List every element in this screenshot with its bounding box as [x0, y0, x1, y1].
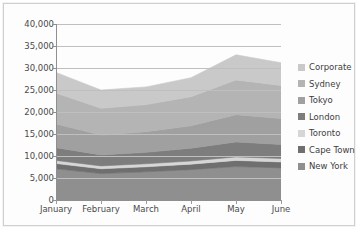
legend-item[interactable]: Tokyo	[298, 92, 362, 109]
plot-area	[56, 24, 281, 200]
y-axis-tick-label: 25,000	[8, 86, 54, 94]
chart-frame: 05,00010,00015,00020,00025,00030,00035,0…	[3, 3, 355, 226]
gridline	[56, 156, 281, 157]
legend-swatch-icon	[298, 163, 305, 170]
legend-item[interactable]: Corporate	[298, 59, 362, 76]
gridline	[56, 90, 281, 91]
x-axis-tick-label: June	[272, 204, 291, 214]
chart-legend: CorporateSydneyTokyoLondonTorontoCape To…	[298, 59, 362, 175]
y-axis-tick-label: 30,000	[8, 64, 54, 72]
y-axis-tick-label: 35,000	[8, 42, 54, 50]
legend-swatch-icon	[298, 97, 305, 104]
gridline	[56, 178, 281, 179]
x-axis-labels: JanuaryFebruaryMarchAprilMayJune	[56, 204, 281, 218]
x-axis-tick-label: February	[82, 204, 120, 214]
legend-item[interactable]: Toronto	[298, 125, 362, 142]
legend-item[interactable]: New York	[298, 158, 362, 175]
legend-item-label: London	[309, 112, 340, 122]
x-axis-tick-label: March	[133, 204, 159, 214]
legend-item-label: Corporate	[309, 62, 352, 72]
legend-item[interactable]: London	[298, 109, 362, 126]
legend-item-label: New York	[309, 161, 348, 171]
gridline	[56, 112, 281, 113]
y-axis-tick-label: 5,000	[8, 174, 54, 182]
x-axis-tick-label: January	[40, 204, 72, 214]
x-axis-tick-label: May	[227, 204, 245, 214]
y-axis-tick-label: 0	[8, 196, 54, 204]
legend-item-label: Sydney	[309, 79, 340, 89]
gridline	[56, 24, 281, 25]
y-axis-line	[56, 24, 57, 200]
legend-swatch-icon	[298, 64, 305, 71]
legend-swatch-icon	[298, 130, 305, 137]
y-axis: 05,00010,00015,00020,00025,00030,00035,0…	[8, 4, 54, 227]
stacked-area-chart: 05,00010,00015,00020,00025,00030,00035,0…	[4, 4, 356, 227]
legend-swatch-icon	[298, 113, 305, 120]
x-axis-tick-label: April	[181, 204, 200, 214]
y-axis-tick-label: 10,000	[8, 152, 54, 160]
y-axis-tick-label: 15,000	[8, 130, 54, 138]
legend-item[interactable]: Cape Town	[298, 142, 362, 159]
legend-item-label: Tokyo	[309, 95, 333, 105]
legend-item-label: Cape Town	[309, 145, 355, 155]
legend-swatch-icon	[298, 146, 305, 153]
gridline	[56, 68, 281, 69]
y-axis-tick-label: 40,000	[8, 20, 54, 28]
gridline	[56, 134, 281, 135]
x-axis-line	[56, 200, 281, 201]
legend-item-label: Toronto	[309, 128, 340, 138]
legend-swatch-icon	[298, 80, 305, 87]
gridline	[56, 46, 281, 47]
legend-item[interactable]: Sydney	[298, 76, 362, 93]
y-axis-tick-label: 20,000	[8, 108, 54, 116]
